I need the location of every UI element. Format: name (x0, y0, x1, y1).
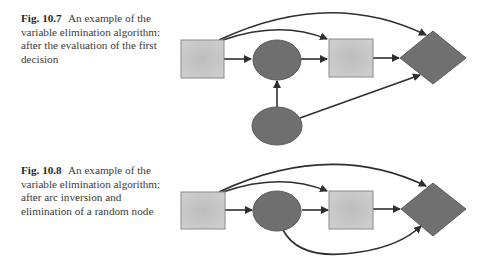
diagram-fig-10-8 (219, 164, 426, 254)
decision-node-2 (329, 191, 373, 229)
utility-node (400, 31, 466, 84)
arc-random1-utility (283, 226, 421, 254)
random-node-1 (253, 40, 301, 80)
influence-diagrams (0, 0, 490, 270)
decision-node-1 (181, 40, 224, 78)
random-node-2 (252, 107, 302, 145)
decision-node-1 (181, 192, 225, 229)
arc-decision1-utility (219, 164, 426, 192)
utility-node (401, 183, 466, 236)
random-node-1 (253, 191, 301, 231)
arc-random2-utility (300, 75, 420, 118)
decision-node-2 (329, 39, 373, 77)
arc-decision1-utility (219, 13, 426, 40)
diagram-fig-10-7 (219, 13, 426, 118)
